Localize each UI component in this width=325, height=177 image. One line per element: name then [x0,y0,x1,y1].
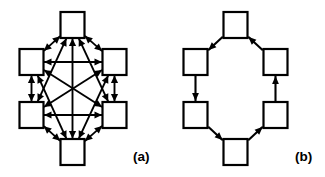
figure-root: (a) (b) [0,0,325,177]
panel-b-ring-graph: (b) [162,0,325,177]
edge [85,126,102,141]
edge [248,37,263,50]
graph-node-top [224,12,248,38]
arrowhead [44,58,52,65]
edge [192,76,199,101]
graph-node-upper-right [264,49,288,75]
edge [28,76,35,102]
graph-node-upper-right [103,49,127,75]
arrowhead [95,111,103,118]
edge [44,36,60,51]
edge [111,76,118,102]
graph-node-upper-left [184,49,208,75]
graph-node-bottom [224,139,248,165]
graph-node-top [61,12,85,38]
graph-node-lower-right [103,102,127,128]
arrowhead [272,76,279,84]
panel-b-node-layer [184,12,288,165]
arrowhead [192,93,199,101]
arrowhead [69,39,76,47]
edge [272,76,279,101]
arrowhead [28,76,35,84]
arrowhead [69,131,76,139]
arrowhead [95,58,103,65]
graph-node-upper-left [20,49,44,75]
arrowhead [44,111,52,118]
arrowhead [28,94,35,102]
graph-node-lower-right [264,102,288,128]
graph-node-bottom [61,139,85,165]
panel-a-fully-connected-graph: (a) [0,0,162,177]
edge [208,127,223,140]
edge [248,127,263,140]
arrowhead [111,76,118,84]
edge [208,37,223,50]
panel-b-label: (b) [295,149,312,164]
graph-node-lower-left [20,102,44,128]
graph-node-lower-left [184,102,208,128]
panel-a-label: (a) [133,149,150,164]
arrowhead [111,94,118,102]
edge [44,126,60,141]
edge [85,36,102,51]
